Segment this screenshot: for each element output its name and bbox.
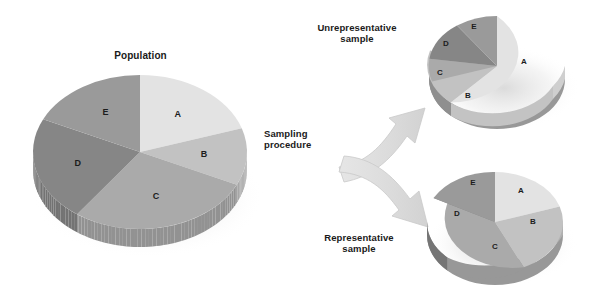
population-side-C <box>221 201 223 221</box>
population-side-C <box>141 229 145 247</box>
population-side-D <box>35 165 36 186</box>
population-side-C <box>178 223 181 242</box>
population-side-C <box>156 228 160 246</box>
population-side-C <box>105 225 109 244</box>
population-side-D <box>53 197 55 217</box>
representative-label-E: E <box>470 178 476 187</box>
population-side-B <box>242 173 243 194</box>
population-side-C <box>207 210 210 230</box>
population-side-C <box>181 222 184 241</box>
population-side-D <box>35 168 36 189</box>
population-side-C <box>78 215 81 235</box>
population-side-D <box>34 163 35 184</box>
representative-sample-label: Representative sample <box>300 232 418 254</box>
population-side-C <box>188 219 191 238</box>
population-side-D <box>68 209 71 229</box>
population-side-C <box>210 208 213 228</box>
population-side-C <box>164 226 168 245</box>
population-side-C <box>185 221 188 240</box>
population-side-C <box>192 218 195 237</box>
population-side-D <box>74 213 77 233</box>
population-side-B <box>245 163 246 184</box>
population-side-C <box>123 228 127 246</box>
population-side-D <box>41 181 42 201</box>
representative-label-C: C <box>492 242 498 251</box>
population-side-D <box>44 186 46 206</box>
population-side-C <box>134 229 138 247</box>
unrepresentative-label-D: D <box>443 39 449 48</box>
population-side-C <box>81 216 84 235</box>
population-side-D <box>36 171 37 192</box>
population-side-C <box>195 217 198 236</box>
population-side-D <box>60 204 63 224</box>
population-side-C <box>218 203 221 223</box>
population-side-C <box>235 185 237 205</box>
population-side-C <box>130 229 134 247</box>
unrepresentative-label-E: E <box>471 22 477 31</box>
population-side-D <box>58 201 60 221</box>
population-side-C <box>77 214 78 233</box>
population-side-D <box>47 191 49 211</box>
population-side-D <box>63 205 66 225</box>
population-side-C <box>174 224 178 243</box>
population-side-C <box>116 227 120 246</box>
population-side-B <box>243 171 244 192</box>
population-side-B <box>237 183 238 202</box>
population-label-D: D <box>75 158 82 168</box>
population-side-D <box>51 195 53 215</box>
population-side-C <box>223 199 225 219</box>
population-side-C <box>225 196 227 216</box>
population-side-D <box>46 188 48 208</box>
population-label-C: C <box>153 191 160 201</box>
population-side-D <box>39 178 40 199</box>
population-side-D <box>49 193 51 213</box>
population-side-B <box>239 178 240 199</box>
population-side-C <box>127 228 131 246</box>
sampling-arrow-lower <box>339 156 428 227</box>
unrepresentative-label-C: C <box>437 68 443 77</box>
population-side-D <box>56 199 58 219</box>
population-side-C <box>204 212 207 232</box>
population-side-C <box>171 225 175 244</box>
population-side-D <box>37 173 38 194</box>
representative-label-A: A <box>518 186 524 195</box>
population-side-C <box>91 220 94 239</box>
population-side-C <box>215 205 218 225</box>
population-side-C <box>232 190 234 210</box>
population-side-D <box>42 183 44 203</box>
population-side-C <box>101 224 105 243</box>
population-side-C <box>167 226 171 245</box>
population-side-D <box>66 207 69 227</box>
population-side-C <box>149 228 153 246</box>
sampling-procedure-label: Sampling procedure <box>264 128 340 150</box>
population-side-C <box>85 218 88 237</box>
population-side-D <box>71 211 74 231</box>
unrepresentative-label-A: A <box>521 57 527 66</box>
population-side-C <box>98 223 101 242</box>
unrepresentative-label-B: B <box>465 91 471 100</box>
population-side-C <box>108 226 112 245</box>
population-side-B <box>244 168 245 189</box>
population-side-C <box>198 215 201 234</box>
population-side-C <box>213 207 216 227</box>
population-side-C <box>227 194 229 214</box>
population-pie: A B C D E <box>33 75 247 247</box>
population-side-C <box>160 227 164 246</box>
population-side-C <box>233 187 235 207</box>
population-side-C <box>88 219 91 238</box>
representative-label-D: D <box>454 209 460 218</box>
population-side-B <box>245 165 246 186</box>
population-side-C <box>94 222 97 241</box>
figure-canvas: A B C D E A B <box>0 0 591 305</box>
population-label-A: A <box>174 109 181 119</box>
pie-diagram-svg: A B C D E A B <box>0 0 591 305</box>
population-side-C <box>112 226 116 245</box>
population-label-E: E <box>103 107 109 117</box>
population-side-C <box>138 229 142 247</box>
population-side-C <box>201 214 204 234</box>
population-title: Population <box>78 50 203 62</box>
population-side-D <box>38 176 39 197</box>
representative-label-B: B <box>530 217 536 226</box>
unrepresentative-sample-label: Unrepresentative sample <box>296 22 418 44</box>
population-side-C <box>153 228 157 246</box>
